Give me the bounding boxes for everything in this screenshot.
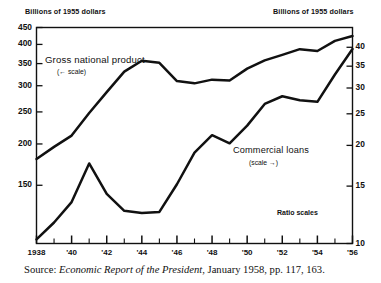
annotation-commercial-loans: Commercial loans <box>233 145 309 155</box>
right-tick-label: 40 <box>356 41 381 51</box>
left-tick-label: 200 <box>6 138 32 148</box>
left-tick-label: 400 <box>6 38 32 48</box>
x-tick-label: '48 <box>197 248 227 257</box>
x-tick-label: '56 <box>338 248 368 257</box>
right-tick-label: 30 <box>356 82 381 92</box>
right-tick-label: 25 <box>356 108 381 118</box>
x-tick-label: '42 <box>92 248 122 257</box>
x-tick-label: '44 <box>127 248 157 257</box>
right-axis-ticks <box>347 47 353 243</box>
x-tick-label: '46 <box>162 248 192 257</box>
x-tick-label: '40 <box>57 248 87 257</box>
x-tick-label: '54 <box>302 248 332 257</box>
left-tick-label: 250 <box>6 106 32 116</box>
plot-area <box>0 0 381 283</box>
x-tick-label: '52 <box>267 248 297 257</box>
x-axis-ticks <box>37 236 353 244</box>
source-note: Source: Economic Report of the President… <box>24 264 325 275</box>
source-prefix: Source: <box>24 264 56 275</box>
left-axis-ticks <box>37 28 43 186</box>
left-tick-label: 450 <box>6 22 32 32</box>
left-tick-label: 150 <box>6 179 32 189</box>
source-title: Economic Report of the President <box>59 264 202 275</box>
right-tick-label: 35 <box>356 60 381 70</box>
chart-figure: Billions of 1955 dollars Billions of 195… <box>0 0 381 283</box>
annotation-loans-scale-arrow: (scale →) <box>249 159 278 166</box>
x-tick-label: 1938 <box>22 248 52 257</box>
source-rest: , January 1958, pp. 117, 163. <box>202 264 325 275</box>
left-tick-label: 300 <box>6 80 32 90</box>
left-tick-label: 350 <box>6 58 32 68</box>
right-tick-label: 15 <box>356 180 381 190</box>
annotation-gross-national-product: Gross national product <box>45 54 145 65</box>
right-tick-label: 10 <box>356 238 381 248</box>
annotation-ratio-scales: Ratio scales <box>277 209 318 216</box>
x-tick-label: '50 <box>232 248 262 257</box>
annotation-gnp-scale-arrow: (← scale) <box>57 68 86 75</box>
right-tick-label: 20 <box>356 139 381 149</box>
